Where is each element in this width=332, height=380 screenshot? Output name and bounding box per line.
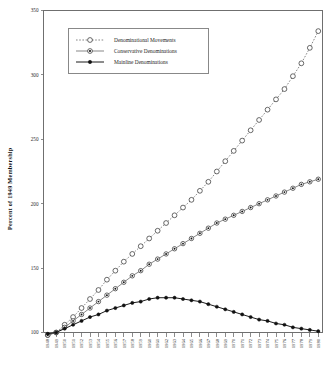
data-point-marker — [173, 296, 176, 299]
data-point-marker-center — [98, 301, 100, 303]
data-point-marker — [317, 330, 320, 333]
data-point-marker — [138, 244, 143, 249]
data-point-marker — [156, 296, 159, 299]
data-point-marker-center — [123, 281, 125, 283]
data-point-marker — [308, 328, 311, 331]
data-point-marker — [79, 306, 84, 311]
data-point-marker — [121, 259, 126, 264]
data-point-marker — [282, 87, 287, 92]
y-tick-label: 150 — [31, 265, 39, 271]
x-axis-ticks: 1948194919501951195219531954195519561957… — [45, 333, 321, 349]
data-point-marker — [300, 327, 303, 330]
legend-item-denominational-movements[interactable]: Denominational Movements — [76, 37, 176, 43]
data-point-marker-center — [233, 214, 235, 216]
data-point-marker-center — [72, 320, 74, 322]
data-point-marker — [249, 315, 252, 318]
y-tick-label: 300 — [31, 72, 39, 78]
series-conservative-denominations — [46, 177, 321, 337]
data-point-marker — [257, 118, 262, 123]
data-point-marker — [131, 301, 134, 304]
data-point-marker — [232, 310, 235, 313]
data-point-marker — [55, 331, 58, 334]
chart-legend: Denominational Movements Conservative De… — [68, 28, 208, 73]
data-point-marker-center — [131, 275, 133, 277]
x-tick-label: 1963 — [172, 338, 177, 348]
legend-label-mainline-denominations: Mainline Denominations — [114, 59, 168, 65]
data-point-marker-center — [258, 203, 260, 205]
data-point-marker — [248, 128, 253, 133]
data-point-marker-center — [284, 191, 286, 193]
x-tick-label: 1949 — [54, 338, 59, 348]
x-tick-label: 1950 — [62, 338, 67, 348]
legend-marker-open-circle-icon — [88, 38, 93, 43]
data-point-marker — [46, 332, 49, 335]
x-tick-label: 1961 — [155, 338, 160, 348]
data-point-marker — [241, 313, 244, 316]
data-point-marker-center — [250, 207, 252, 209]
data-point-marker — [207, 303, 210, 306]
x-tick-label: 1971 — [240, 338, 245, 348]
data-point-marker — [88, 297, 93, 302]
data-point-marker — [266, 319, 269, 322]
data-point-marker-center — [140, 270, 142, 272]
x-tick-label: 1958 — [130, 338, 135, 348]
data-point-marker-center — [275, 195, 277, 197]
series-denominational-movements — [45, 29, 320, 338]
x-tick-label: 1959 — [138, 338, 143, 348]
data-point-marker — [155, 228, 160, 233]
data-point-marker-center — [309, 181, 311, 183]
data-point-marker — [291, 74, 296, 79]
x-tick-label: 1973 — [257, 338, 262, 348]
data-point-marker-center — [157, 258, 159, 260]
x-tick-label: 1964 — [181, 338, 186, 348]
data-point-marker — [206, 179, 211, 184]
x-tick-label: 1967 — [206, 338, 211, 348]
data-point-marker — [181, 205, 186, 210]
data-point-marker — [257, 318, 260, 321]
data-point-marker — [240, 138, 245, 143]
x-tick-label: 1978 — [299, 338, 304, 348]
data-point-marker — [130, 252, 135, 257]
legend-label-denominational-movements: Denominational Movements — [114, 37, 176, 43]
data-point-marker — [283, 323, 286, 326]
x-tick-label: 1975 — [274, 338, 279, 348]
x-tick-label: 1966 — [198, 338, 203, 348]
data-point-marker — [214, 169, 219, 174]
data-point-marker — [148, 297, 151, 300]
data-point-marker — [71, 323, 74, 326]
series-line-denominational-movements — [48, 31, 319, 335]
x-tick-label: 1954 — [96, 338, 101, 348]
x-tick-label: 1948 — [45, 338, 50, 348]
x-tick-label: 1952 — [79, 338, 84, 348]
data-point-marker-center — [148, 263, 150, 265]
data-point-marker-center — [267, 199, 269, 201]
legend-label-conservative-denominations: Conservative Denominations — [114, 48, 177, 54]
data-point-marker-center — [224, 218, 226, 220]
data-point-marker — [114, 306, 117, 309]
data-point-marker — [105, 277, 110, 282]
data-point-marker — [231, 148, 236, 153]
y-tick-label: 100 — [31, 329, 39, 335]
x-tick-label: 1962 — [164, 338, 169, 348]
y-axis-title-text: Percent of 1949 Membership — [6, 147, 13, 230]
x-tick-label: 1960 — [147, 338, 152, 348]
data-point-marker — [274, 322, 277, 325]
x-tick-label: 1957 — [122, 338, 127, 348]
y-tick-label: 250 — [31, 136, 39, 142]
data-point-marker-center — [199, 232, 201, 234]
data-point-marker — [291, 326, 294, 329]
data-point-marker-center — [292, 187, 294, 189]
legend-item-conservative-denominations[interactable]: Conservative Denominations — [76, 48, 177, 54]
data-point-marker-center — [241, 210, 243, 212]
legend-marker-dot-in-circle-center-icon — [89, 50, 91, 52]
data-point-marker-center — [81, 314, 83, 316]
x-tick-label: 1955 — [105, 338, 110, 348]
data-point-marker — [307, 45, 312, 50]
x-tick-label: 1974 — [265, 338, 270, 348]
data-point-marker-center — [216, 222, 218, 224]
data-point-marker-center — [174, 248, 176, 250]
data-point-marker — [265, 107, 270, 112]
data-point-marker-center — [89, 307, 91, 309]
x-tick-label: 1968 — [215, 338, 220, 348]
data-point-marker — [122, 304, 125, 307]
